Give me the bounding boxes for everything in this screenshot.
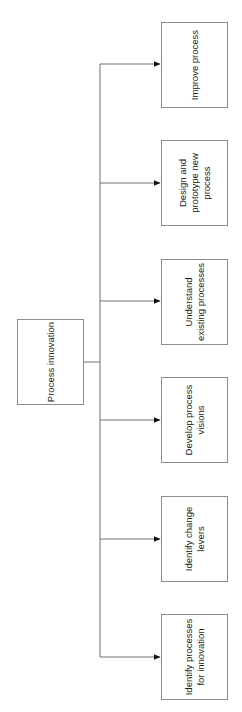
node-label: Identify processes for innovation — [183, 615, 207, 699]
root-node-label: Process innovation — [45, 320, 57, 404]
node-identify-processes: Identify processes for innovation — [161, 614, 228, 700]
node-design-prototype: Design and prototype new process — [161, 140, 228, 226]
node-label: Identify change levers — [183, 497, 207, 581]
diagram-canvas: Process innovation Improve process Desig… — [0, 0, 242, 712]
node-develop-visions: Develop process visions — [161, 377, 228, 463]
node-improve-process: Improve process — [161, 22, 228, 108]
root-node-process-innovation: Process innovation — [17, 319, 84, 405]
node-label: Design and prototype new process — [177, 141, 213, 225]
node-understand-existing: Understand existing processes — [161, 259, 228, 345]
node-identify-change-levers: Identify change levers — [161, 496, 228, 582]
node-label: Understand existing processes — [183, 260, 207, 344]
node-label: Improve process — [189, 23, 201, 107]
node-label: Develop process visions — [183, 378, 207, 462]
